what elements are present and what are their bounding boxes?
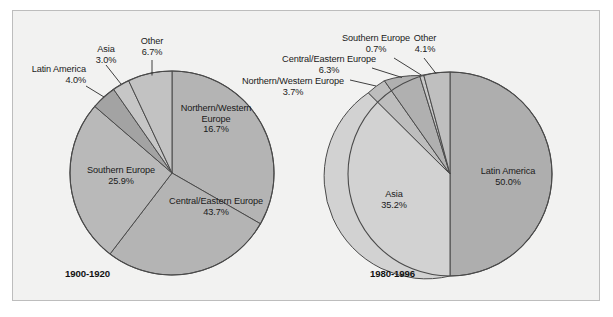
label-right-central-pct: 6.3% — [272, 65, 386, 76]
label-left-central-pct: 43.7% — [156, 207, 276, 218]
label-left-northern-name: Northern/Western — [170, 103, 262, 114]
label-left-latin-name: Latin America — [16, 64, 86, 75]
label-left-latin-pct: 4.0% — [16, 75, 86, 86]
label-right-northern-name: Northern/Western Europe — [234, 76, 352, 87]
period-label-right: 1980-1996 — [370, 268, 415, 279]
leader-right-southern — [394, 58, 422, 75]
label-left-asia: Asia 3.0% — [76, 44, 136, 65]
label-left-latin-america: Latin America 4.0% — [16, 64, 86, 85]
label-left-central-eastern: Central/Eastern Europe 43.7% — [156, 196, 276, 217]
label-right-asia-name: Asia — [366, 189, 422, 200]
label-left-northern-name2: Europe — [170, 114, 262, 125]
label-left-northern-pct: 16.7% — [170, 124, 262, 135]
label-right-southern: Southern Europe 0.7% — [330, 33, 422, 54]
label-right-asia-pct: 35.2% — [366, 200, 422, 211]
leader-right-northern — [350, 80, 376, 86]
label-right-southern-name: Southern Europe — [330, 33, 422, 44]
label-right-latin-name: Latin America — [466, 166, 550, 177]
label-right-central-eastern: Central/Eastern Europe 6.3% — [272, 54, 386, 75]
label-right-central-name: Central/Eastern Europe — [272, 54, 386, 65]
leader-right-other — [424, 58, 436, 74]
period-label-left: 1900-1920 — [65, 268, 110, 279]
label-right-asia: Asia 35.2% — [366, 189, 422, 210]
label-left-southern-pct: 25.9% — [74, 176, 168, 187]
label-right-latin-america: Latin America 50.0% — [466, 166, 550, 187]
label-right-southern-pct: 0.7% — [330, 44, 422, 55]
leader-left-asia — [106, 65, 121, 84]
label-right-northern-western: Northern/Western Europe 3.7% — [234, 76, 352, 97]
label-left-central-name: Central/Eastern Europe — [156, 196, 276, 207]
pie-chart-figure: Other 6.7% Asia 3.0% Latin America 4.0% … — [0, 0, 613, 317]
leader-left-latin — [86, 86, 104, 97]
label-left-northern-western: Northern/Western Europe 16.7% — [170, 103, 262, 135]
label-left-southern-name: Southern Europe — [74, 165, 168, 176]
label-right-latin-pct: 50.0% — [466, 177, 550, 188]
label-left-asia-name: Asia — [76, 44, 136, 55]
label-left-southern: Southern Europe 25.9% — [74, 165, 168, 186]
label-right-northern-pct: 3.7% — [234, 87, 352, 98]
